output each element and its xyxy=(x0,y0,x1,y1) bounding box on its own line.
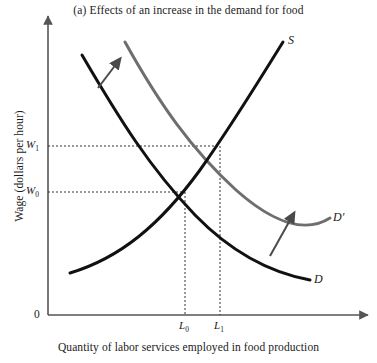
y-tick-w1-sub: 1 xyxy=(35,144,39,153)
demand-curve-shifted xyxy=(125,42,330,225)
demand-shift-arrow-upper xyxy=(98,59,120,88)
y-tick-w1-main: W xyxy=(26,138,35,150)
supply-curve-label: S xyxy=(288,33,294,48)
plot-area xyxy=(0,0,377,363)
x-axis-title: Quantity of labor services employed in f… xyxy=(0,341,377,353)
x-tick-label-l1: L1 xyxy=(214,319,224,334)
y-axis-title: Wage (dollars per hour) xyxy=(13,71,25,261)
y-tick-w0-main: W xyxy=(26,184,35,196)
y-tick-label-w0: W0 xyxy=(26,184,39,199)
y-tick-w0-sub: 0 xyxy=(35,190,39,199)
demand-curve-label: D xyxy=(314,272,323,287)
supply-curve xyxy=(70,42,283,273)
economics-figure: (a) Effects of an increase in the demand… xyxy=(0,0,377,363)
x-tick-label-l0: L0 xyxy=(179,319,189,334)
x-tick-l0-sub: 0 xyxy=(185,325,189,334)
origin-label: 0 xyxy=(34,308,40,320)
demand-shifted-curve-label: D′ xyxy=(333,210,344,225)
y-tick-label-w1: W1 xyxy=(26,138,39,153)
x-tick-l1-sub: 1 xyxy=(220,325,224,334)
